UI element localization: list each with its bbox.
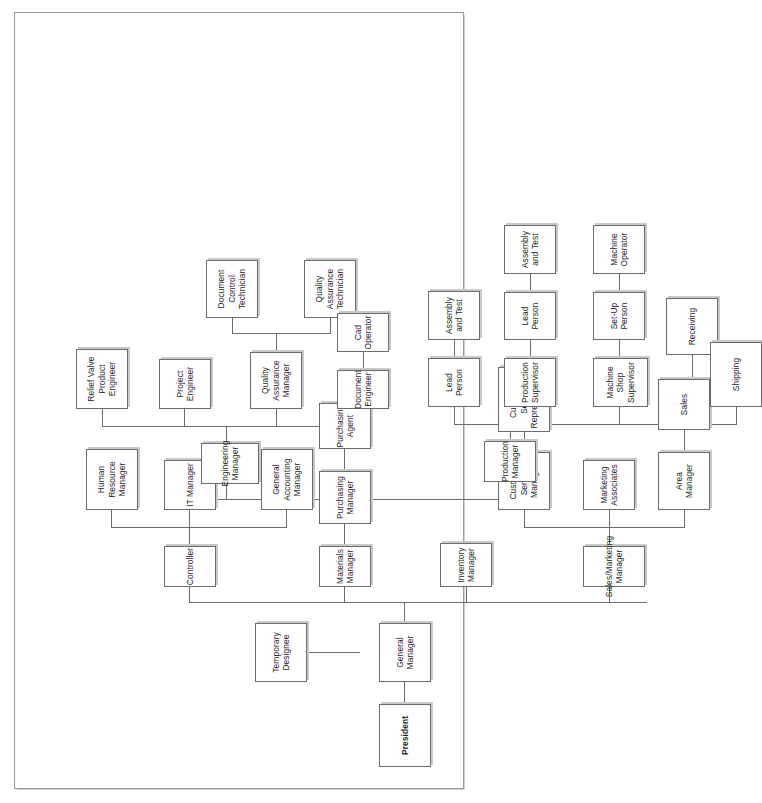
node-production-supervisor[interactable]: Production Supervisor	[504, 358, 556, 407]
connector-gm-temp	[307, 652, 360, 653]
connector-gm-materials	[344, 587, 345, 603]
connector-prod-machineshop	[619, 407, 620, 425]
node-purchasing-agent[interactable]: Purchasing Agent	[319, 403, 371, 449]
connector-doceng-cad	[363, 352, 364, 370]
node-relief-valve-product-engineer[interactable]: Relief Valve Product Engineer	[76, 349, 128, 409]
connector-controller-stem	[189, 528, 190, 546]
node-area-manager[interactable]: Area Manager	[658, 452, 710, 510]
org-chart-canvas: President General Manager Temporary Desi…	[14, 12, 464, 789]
node-general-accounting-manager[interactable]: General Accounting Manager	[261, 449, 313, 510]
connector-eng-qa	[276, 409, 277, 427]
node-cad-operator[interactable]: Cad Operator	[337, 313, 389, 352]
connector-materials-purchmgr	[344, 524, 345, 546]
connector-qa-qatech	[330, 318, 331, 334]
node-quality-assurance-technician[interactable]: Quality Assurance Technician	[304, 260, 356, 318]
node-shipping[interactable]: Shipping	[710, 342, 762, 407]
connector-president-gm	[404, 682, 405, 704]
node-assembly-and-test-a[interactable]: Assembly and Test	[428, 291, 480, 340]
connector-supervisor-leadb	[530, 340, 531, 358]
connector-leadb-assemblyb	[530, 274, 531, 292]
node-marketing-associates[interactable]: Marketing Associates	[583, 460, 635, 510]
node-production-manager[interactable]: Production Manager	[484, 441, 536, 482]
connector-salesmkt-mktassoc	[609, 510, 610, 528]
spine-gm-lower	[404, 602, 647, 603]
node-project-engineer[interactable]: Project Engineer	[159, 359, 211, 409]
connector-prod-shipping	[736, 407, 737, 425]
node-president[interactable]: President	[379, 704, 431, 767]
connector-controller-acct	[286, 510, 287, 528]
connector-gm-inventory	[466, 587, 467, 603]
connector-gm-stem	[404, 603, 405, 623]
connector-setup-machineop	[619, 274, 620, 292]
node-assembly-and-test-b[interactable]: Assembly and Test	[504, 225, 556, 274]
node-engineering-manager[interactable]: Engineering Manager	[201, 443, 259, 484]
spine-qa	[232, 333, 330, 334]
node-inventory-manager[interactable]: Inventory Manager	[440, 543, 492, 587]
connector-eng-relief	[102, 409, 103, 427]
spine-salesmkt	[524, 527, 684, 528]
connector-purchmgr-purchagent	[344, 449, 345, 471]
connector-prod-lead	[454, 407, 455, 425]
connector-leada-assemblya	[454, 340, 455, 358]
spine-controller	[111, 527, 286, 528]
node-lead-person-b[interactable]: Lead Person	[504, 292, 556, 340]
connector-area-sales	[684, 430, 685, 452]
connector-qa-stem	[276, 334, 277, 352]
node-purchasing-manager[interactable]: Purchasing Manager	[319, 471, 371, 524]
node-controller[interactable]: Controller	[164, 546, 216, 587]
node-temporary-designee[interactable]: Temporary Designee	[255, 623, 307, 682]
connector-salesmkt-area	[684, 510, 685, 528]
node-materials-manager[interactable]: Materials Manager	[319, 546, 371, 587]
node-sales-marketing-manager[interactable]: Sales/Marketing Manager	[583, 546, 645, 587]
spine-gm	[189, 602, 405, 603]
connector-controller-it	[189, 510, 190, 528]
node-set-up-person[interactable]: Set-Up Person	[593, 292, 645, 340]
node-lead-person-a[interactable]: Lead Person	[428, 358, 480, 407]
connector-machineshop-setup	[619, 340, 620, 358]
node-document-engineer[interactable]: Document Engineer	[337, 370, 389, 409]
node-machine-operator[interactable]: Machine Operator	[593, 225, 645, 274]
connector-eng-project	[184, 409, 185, 427]
node-sales[interactable]: Sales	[658, 379, 710, 430]
connector-controller-hr	[111, 510, 112, 528]
node-quality-assurance-manager[interactable]: Quality Assurance Manager	[250, 352, 302, 409]
node-machine-shop-supervisor[interactable]: Machine Shop Supervisor	[593, 358, 648, 407]
node-human-resource-manager[interactable]: Human Resource Manager	[86, 449, 138, 510]
node-general-manager[interactable]: General Manager	[379, 623, 431, 682]
node-document-control-technician[interactable]: Document Control Technician	[206, 260, 258, 318]
connector-qa-doctech	[232, 318, 233, 334]
connector-salesmkt-csm	[524, 510, 525, 528]
